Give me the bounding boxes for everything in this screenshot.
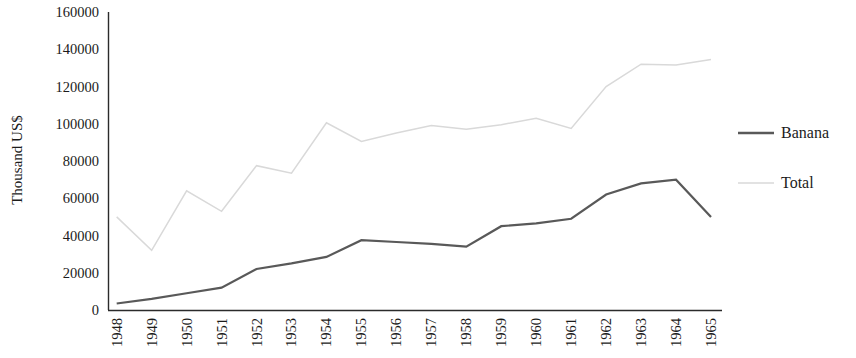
- x-tick-label: 1959: [493, 318, 509, 347]
- y-tick-label: 0: [92, 302, 99, 318]
- y-axis-tick-labels: 0200004000060000800001000001200001400001…: [56, 4, 100, 318]
- chart-legend: BananaTotal: [738, 124, 829, 191]
- legend-label-banana: Banana: [781, 124, 829, 141]
- y-axis-title: Thousand US$: [9, 115, 25, 205]
- axis-lines: [108, 12, 722, 311]
- x-tick-label: 1957: [423, 318, 439, 347]
- y-axis-title-group: Thousand US$: [9, 115, 25, 205]
- chart-canvas: Thousand US$ 020000400006000080000100000…: [0, 0, 856, 358]
- x-tick-label: 1949: [144, 318, 160, 347]
- x-tick-label: 1948: [109, 318, 125, 347]
- x-tick-label: 1955: [353, 318, 369, 347]
- x-tick-label: 1963: [633, 318, 649, 347]
- y-tick-label: 60000: [63, 190, 99, 206]
- y-tick-label: 140000: [56, 41, 100, 57]
- line-chart: Thousand US$ 020000400006000080000100000…: [0, 0, 856, 358]
- x-tick-label: 1961: [563, 318, 579, 347]
- x-tick-label: 1952: [249, 318, 265, 347]
- y-tick-label: 40000: [63, 228, 99, 244]
- y-tick-label: 20000: [63, 265, 99, 281]
- x-tick-label: 1951: [214, 318, 230, 347]
- y-tick-label: 160000: [56, 4, 100, 20]
- series-line-total: [117, 59, 711, 250]
- x-tick-label: 1950: [179, 318, 195, 347]
- y-tick-label: 80000: [63, 153, 99, 169]
- x-tick-label: 1956: [388, 318, 404, 347]
- series-line-banana: [117, 180, 711, 304]
- series-lines: [117, 59, 711, 303]
- legend-label-total: Total: [781, 174, 814, 191]
- x-tick-label: 1954: [318, 317, 334, 347]
- x-tick-label: 1958: [458, 318, 474, 347]
- x-axis-tick-labels: 1948194919501951195219531954195519561957…: [109, 317, 719, 347]
- x-tick-label: 1965: [703, 318, 719, 347]
- x-tick-label: 1953: [283, 318, 299, 347]
- y-tick-label: 120000: [56, 79, 100, 95]
- x-tick-label: 1964: [668, 317, 684, 347]
- x-tick-label: 1962: [598, 318, 614, 347]
- y-tick-label: 100000: [56, 116, 100, 132]
- x-tick-label: 1960: [528, 318, 544, 347]
